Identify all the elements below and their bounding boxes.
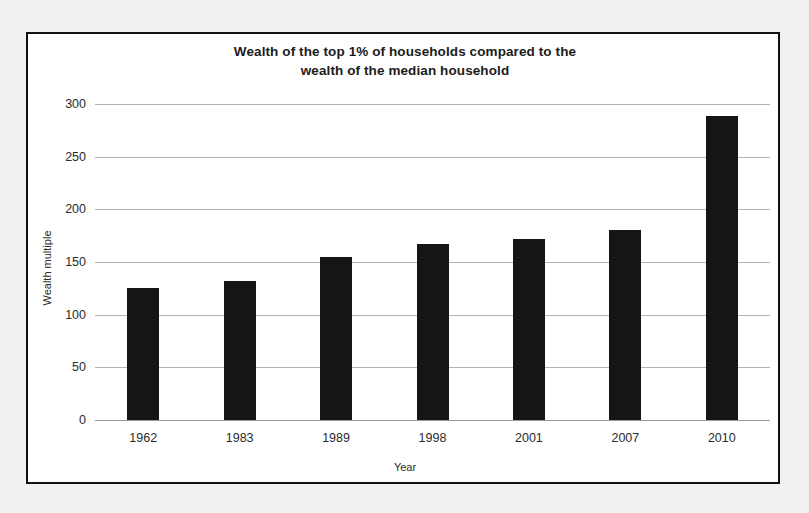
x-axis-tick-label: 2010 [708, 431, 736, 445]
x-axis-tick-label: 1998 [419, 431, 447, 445]
x-axis-tick-label: 2007 [611, 431, 639, 445]
bar [127, 288, 159, 420]
y-axis-tick-label: 250 [65, 150, 86, 164]
bar [706, 116, 738, 419]
bar [417, 244, 449, 420]
x-axis-label: Year [28, 461, 782, 473]
x-axis-tick-label: 1989 [322, 431, 350, 445]
y-axis-tick-label: 0 [79, 413, 86, 427]
gridline: 0 [95, 420, 770, 421]
bar-series [95, 104, 770, 420]
y-axis-tick-label: 200 [65, 202, 86, 216]
x-axis-tick-label: 1983 [226, 431, 254, 445]
chart-title-line-1: Wealth of the top 1% of households compa… [28, 42, 782, 61]
chart-title: Wealth of the top 1% of households compa… [28, 42, 782, 80]
chart-frame: Wealth of the top 1% of households compa… [26, 32, 780, 484]
bar [224, 281, 256, 420]
y-axis-label: Wealth multiple [41, 231, 53, 306]
x-axis-tick-label: 2001 [515, 431, 543, 445]
chart-title-line-2: wealth of the median household [28, 61, 782, 80]
x-axis-tick-label: 1962 [129, 431, 157, 445]
bar [320, 257, 352, 419]
figure-canvas: Wealth of the top 1% of households compa… [0, 0, 809, 513]
bar [513, 239, 545, 420]
y-axis-tick-label: 100 [65, 308, 86, 322]
plot-area: 050100150200250300 196219831989199820012… [95, 104, 770, 420]
y-axis-tick-label: 150 [65, 255, 86, 269]
bar [609, 230, 641, 420]
y-axis-tick-label: 50 [72, 360, 86, 374]
y-axis-tick-label: 300 [65, 97, 86, 111]
